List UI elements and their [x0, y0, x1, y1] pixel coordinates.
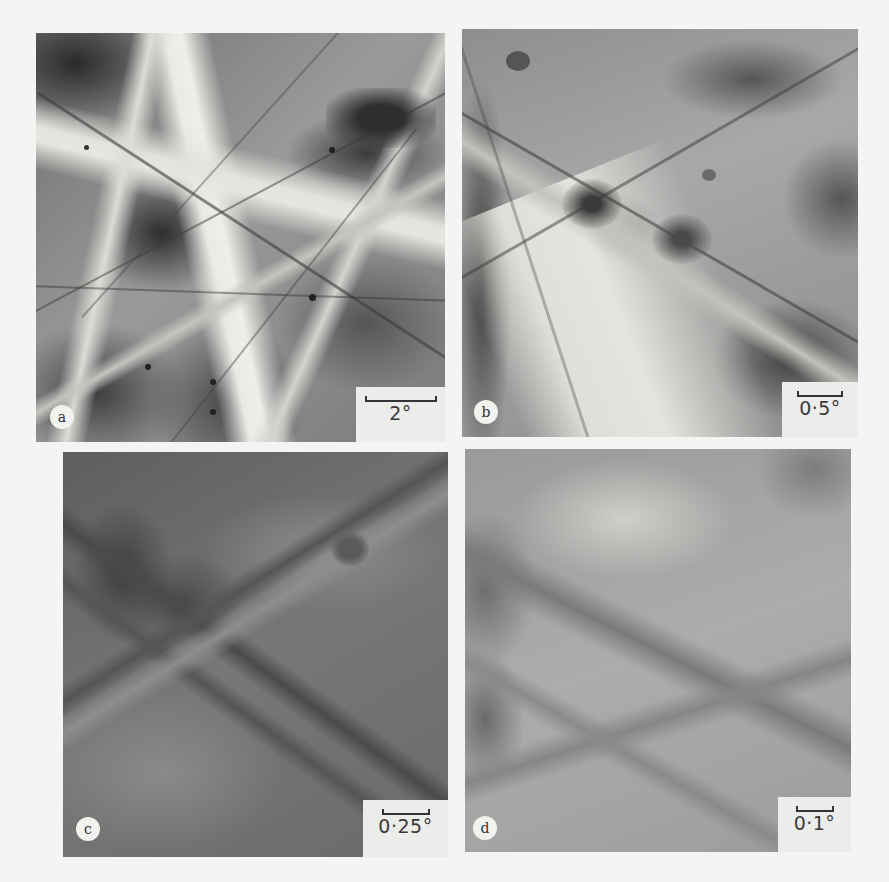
panel-a-dark-region	[326, 88, 436, 148]
panel-a-dot	[84, 145, 89, 150]
panel-c-image: c 0·25°	[63, 452, 448, 857]
panel-b-dot	[702, 169, 716, 181]
panel-label: b	[474, 400, 498, 424]
panel-a-dot	[210, 409, 216, 415]
panel-b-dark-node	[652, 214, 712, 264]
scale-bar-box: 2°	[356, 387, 445, 442]
scale-bar-box: 0·1°	[778, 797, 851, 852]
panel-a-image: a 2°	[36, 33, 445, 442]
scale-bar-label: 0·5°	[799, 399, 841, 418]
panel-b-dark-node	[562, 179, 622, 229]
panel-a-dot	[145, 364, 151, 370]
panel-c-dot	[331, 532, 369, 566]
scale-bar-box: 0·25°	[363, 800, 448, 857]
panel-b-image: b 0·5°	[462, 29, 858, 437]
panel-label: d	[473, 816, 497, 840]
panel-a-dot	[309, 294, 316, 301]
panel-a-dot	[210, 379, 216, 385]
scale-bar-label: 2°	[389, 404, 412, 423]
scale-bar-label: 0·1°	[794, 814, 836, 833]
panel-a-dot	[329, 147, 335, 153]
panel-b-dot	[506, 51, 530, 71]
scale-bar-label: 0·25°	[378, 817, 432, 836]
panel-label: c	[76, 817, 100, 841]
scale-bar-box: 0·5°	[782, 382, 858, 437]
panel-d-image: d 0·1°	[465, 449, 851, 852]
panel-label: a	[50, 405, 74, 429]
